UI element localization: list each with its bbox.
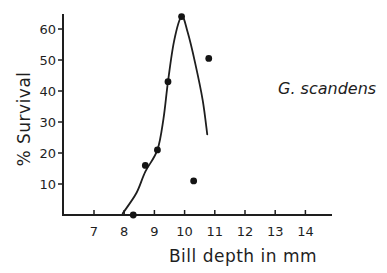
y-tick-label: 10 [39, 177, 56, 192]
data-point [154, 147, 161, 154]
axes [62, 14, 332, 215]
y-axis-title: % Survival [14, 71, 34, 166]
data-point [178, 13, 185, 20]
data-point [165, 78, 172, 85]
data-point [130, 212, 137, 219]
x-tick-label: 10 [176, 224, 193, 239]
x-tick-label: 8 [120, 224, 128, 239]
data-point [190, 178, 197, 185]
x-tick-label: 11 [207, 224, 224, 239]
data-point [205, 55, 212, 62]
x-tick-label: 12 [237, 224, 254, 239]
x-tick-label: 13 [267, 224, 284, 239]
y-tick-label: 30 [39, 115, 56, 130]
data-point [142, 162, 149, 169]
x-tick-label: 7 [90, 224, 98, 239]
y-tick-label: 40 [39, 84, 56, 99]
y-tick-label: 60 [39, 22, 56, 37]
x-tick-label: 14 [297, 224, 314, 239]
y-tick-label: 20 [39, 146, 56, 161]
x-tick-label: 9 [150, 224, 158, 239]
y-ticks: 102030405060 [39, 22, 63, 192]
species-label: G. scandens [278, 79, 376, 98]
y-tick-label: 50 [39, 53, 56, 68]
survival-chart: 7891011121314 102030405060 Bill depth in… [0, 0, 387, 273]
data-points [130, 13, 212, 218]
x-axis-title: Bill depth in mm [169, 246, 317, 266]
